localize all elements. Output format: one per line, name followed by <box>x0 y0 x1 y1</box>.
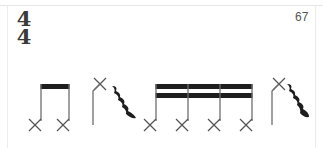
beam-primary <box>156 84 253 89</box>
x-notehead-icon <box>240 119 252 131</box>
quarter-rest-icon <box>287 84 309 117</box>
x-notehead-icon <box>57 119 69 131</box>
x-notehead-icon <box>144 119 156 131</box>
sixteenth-note-group <box>144 84 253 131</box>
beam <box>41 84 70 89</box>
stem <box>272 84 279 125</box>
quarter-note <box>93 78 106 125</box>
quarter-note <box>272 78 285 125</box>
beam-secondary <box>156 93 253 98</box>
quarter-rest-icon <box>112 86 136 118</box>
notation-staff <box>0 0 323 148</box>
x-notehead-icon <box>29 119 41 131</box>
x-notehead-icon <box>208 119 220 131</box>
stem <box>93 84 100 125</box>
x-notehead-icon <box>176 119 188 131</box>
eighth-note-group <box>29 84 70 131</box>
